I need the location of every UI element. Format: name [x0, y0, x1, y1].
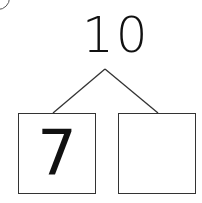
- part-box-right[interactable]: [118, 113, 196, 194]
- part-number-left: 7: [19, 118, 95, 188]
- part-box-left: 7: [18, 113, 96, 194]
